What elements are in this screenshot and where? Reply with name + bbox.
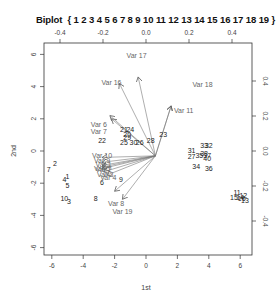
y-axis-right: -0.4-0.20.00.20.4 [252, 76, 269, 227]
observation-label: 8 [94, 195, 98, 202]
variable-label: Var 17 [127, 52, 147, 59]
observation-label: 24 [126, 126, 134, 133]
observation-label: 40 [203, 155, 211, 162]
observation-label: 9 [119, 176, 123, 183]
y-tick-label: 6 [30, 52, 37, 56]
observation-label: 28 [147, 137, 155, 144]
top-tick-label: 0.2 [184, 29, 193, 36]
x-tick-label: -2 [112, 262, 118, 269]
y-tick-label: 0 [30, 149, 37, 153]
variable-labels: Var 17Var 16Var 18Var 11Var 6Var 7Var 19… [91, 52, 213, 215]
x-axis-top: -0.4-0.20.00.20.4 [54, 29, 236, 43]
x-tick-label: 6 [238, 262, 242, 269]
observation-label: 10 [60, 195, 68, 202]
right-tick-label: -0.2 [262, 180, 269, 192]
x-axis-bottom: -6-4-20246 [49, 255, 242, 269]
variable-label: Var 7 [91, 128, 107, 135]
y-tick-label: -4 [30, 212, 37, 218]
right-tick-label: -0.4 [262, 215, 269, 227]
observation-label: 33 [200, 142, 208, 149]
top-tick-label: 0.0 [141, 29, 150, 36]
observation-label: 22 [98, 137, 106, 144]
observation-label: 16 [238, 195, 246, 202]
observation-label: 5 [66, 182, 70, 189]
variable-label: Var 19 [112, 208, 132, 215]
observation-label: 27 [188, 153, 196, 160]
y-tick-label: -6 [30, 244, 37, 250]
y-axis-left: -6-4-20246 [30, 52, 44, 250]
y-tick-label: 2 [30, 117, 37, 121]
observation-label: 36 [205, 165, 213, 172]
right-tick-label: 0.2 [262, 111, 269, 120]
right-tick-label: 0.4 [262, 76, 269, 85]
observation-label: 2 [53, 160, 57, 167]
variable-label: Var 8 [108, 200, 124, 207]
top-tick-label: -0.2 [97, 29, 109, 36]
x-tick-label: 2 [176, 262, 180, 269]
variable-label: Var 16 [101, 79, 121, 86]
x-tick-label: -6 [49, 262, 55, 269]
variable-label: Var 11 [174, 107, 194, 114]
biplot-chart: -6-4-20246 -6-4-20246 -0.4-0.20.00.20.4 … [0, 0, 279, 305]
observation-label: 7 [47, 166, 51, 173]
y-tick-label: -2 [30, 180, 37, 186]
observation-label: 15 [230, 194, 238, 201]
x-tick-label: 0 [144, 262, 148, 269]
x-tick-label: 4 [207, 262, 211, 269]
observation-label: 31 [188, 147, 196, 154]
observation-label: 23 [159, 131, 167, 138]
observation-label: 34 [192, 163, 200, 170]
y-axis-title: 2nd [10, 145, 17, 157]
observation-label: 30 [130, 139, 138, 146]
x-tick-label: -4 [80, 262, 86, 269]
top-tick-label: 0.4 [227, 29, 236, 36]
y-tick-label: 4 [30, 84, 37, 88]
x-axis-title: 1st [141, 284, 150, 291]
variable-arrow [115, 156, 156, 191]
top-tick-label: -0.4 [54, 29, 66, 36]
right-tick-label: 0.0 [262, 146, 269, 155]
variable-label: Var 5 [94, 165, 110, 172]
variable-arrow [110, 116, 156, 156]
variable-label: Var 18 [192, 81, 212, 88]
observation-label: 6 [100, 179, 104, 186]
